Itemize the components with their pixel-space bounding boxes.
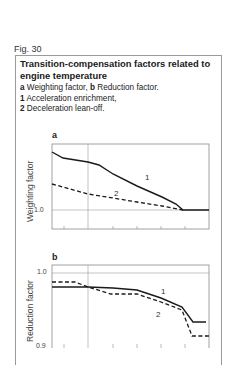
panel-b-plot: 1 2: [52, 265, 209, 348]
panel-a-curve-1-label: 1: [145, 173, 150, 182]
panel-b-frame: [52, 265, 209, 348]
panel-b-curve-1: [52, 287, 206, 322]
panel-b-x-ticks: [64, 344, 185, 348]
panel-b-curve-1-label: 1: [161, 287, 166, 296]
panel-b-curve-2-label: 2: [156, 310, 161, 319]
panel-a-frame: [52, 144, 209, 229]
panel-a-plot: 1 2: [52, 144, 209, 229]
panel-a-x-ticks: [64, 226, 185, 229]
panel-a-curve-2-label: 2: [114, 189, 119, 198]
